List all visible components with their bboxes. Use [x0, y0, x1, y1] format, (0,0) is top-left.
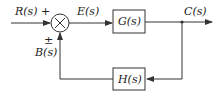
output-label: C(s): [184, 6, 207, 17]
feedback-block-label: H(s): [118, 74, 142, 85]
feedback-sign: ±: [44, 35, 53, 46]
feedback-signal-label: B(s): [35, 47, 57, 58]
forward-block-label: G(s): [118, 16, 141, 27]
error-label: E(s): [77, 6, 99, 17]
input-label: R(s): [15, 6, 38, 17]
input-sign: +: [41, 6, 50, 17]
feedback-path-right: [147, 22, 182, 79]
feedback-path-left: [60, 33, 113, 79]
